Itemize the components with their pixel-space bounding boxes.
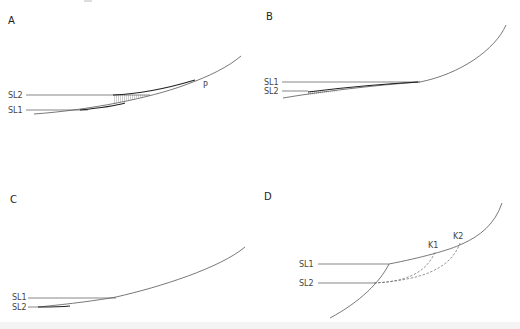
panel-b-slope-curve bbox=[283, 25, 506, 98]
panel-a-letter: A bbox=[8, 15, 15, 26]
panel-a-sl1-label: SL1 bbox=[8, 106, 23, 115]
panel-a-point-p: P bbox=[203, 81, 208, 90]
panel-d-upper-slope bbox=[389, 203, 502, 264]
panel-a-sl2-profile bbox=[113, 80, 195, 95]
figure-canvas: A SL2 SL1 P B SL1 SL2 C SL1 bbox=[0, 0, 520, 329]
panel-a: A SL2 SL1 P bbox=[8, 15, 241, 115]
panel-d-dashed-profile-k1 bbox=[374, 252, 435, 283]
panel-c: C SL1 SL2 bbox=[10, 194, 245, 312]
panel-b-letter: B bbox=[266, 11, 273, 22]
panel-a-slope-curve bbox=[34, 56, 241, 114]
panel-d-letter: D bbox=[264, 191, 272, 202]
bottom-margin-strip bbox=[0, 322, 520, 329]
panel-d-point-k1: K1 bbox=[428, 241, 438, 250]
panel-a-sl1-profile bbox=[80, 103, 125, 110]
panel-b-sl1-label: SL1 bbox=[264, 78, 279, 87]
panel-d-sl1-label: SL1 bbox=[299, 260, 314, 269]
panel-b-sl2-label: SL2 bbox=[264, 87, 279, 96]
panel-c-sl2-label: SL2 bbox=[12, 303, 27, 312]
panel-d-scarp bbox=[330, 264, 389, 318]
panel-a-sl2-label: SL2 bbox=[8, 91, 23, 100]
panel-d-sl2-label: SL2 bbox=[299, 279, 314, 288]
panel-b: B SL1 SL2 bbox=[264, 11, 506, 98]
panel-c-sl1-label: SL1 bbox=[12, 293, 27, 302]
panel-d-point-k2: K2 bbox=[453, 232, 463, 241]
panel-c-letter: C bbox=[10, 194, 17, 205]
panel-d: D SL1 SL2 K1 K2 bbox=[264, 191, 502, 318]
panel-d-dashed-profile-k2 bbox=[374, 243, 460, 283]
